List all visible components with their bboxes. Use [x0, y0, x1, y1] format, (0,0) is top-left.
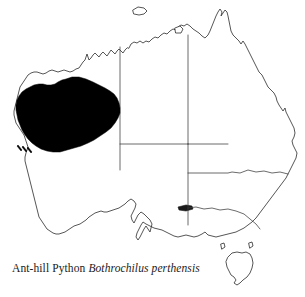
- flinders-island-outline: [249, 242, 253, 248]
- caption-common-name: Ant-hill Python: [12, 262, 85, 274]
- distribution-map-figure: Ant-hill Python Bothrochilus perthensis: [0, 0, 305, 297]
- melville-island-outline: [133, 7, 147, 15]
- tasmania-outline: [226, 252, 253, 285]
- australia-map: [0, 0, 305, 297]
- figure-caption: Ant-hill Python Bothrochilus perthensis: [12, 262, 200, 274]
- king-island-outline: [221, 243, 225, 249]
- caption-scientific-name: Bothrochilus perthensis: [88, 262, 199, 274]
